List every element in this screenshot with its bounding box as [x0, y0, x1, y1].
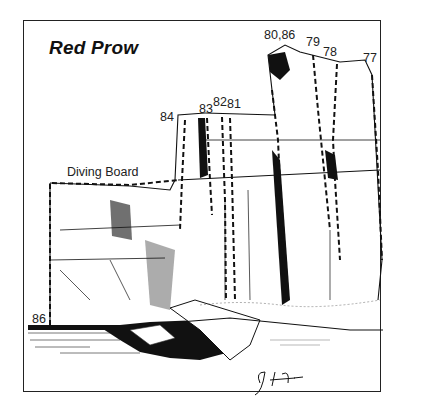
route-82-line[interactable]	[222, 117, 226, 300]
topo-title: Red Prow	[49, 37, 138, 59]
route-label-83[interactable]: 83	[199, 103, 213, 116]
lower-face-shading	[145, 240, 175, 310]
lower-cracks	[60, 260, 130, 300]
route-label-82[interactable]: 82	[213, 96, 227, 109]
boulder-face-shadow	[110, 200, 132, 240]
route-label-77[interactable]: 77	[363, 52, 377, 65]
route-78-line[interactable]	[333, 64, 340, 260]
artist-signature-mark	[255, 372, 303, 395]
prow-shadow	[268, 52, 290, 80]
route-84-line[interactable]	[180, 120, 185, 230]
chimney-shadow	[325, 150, 338, 180]
feature-label-diving-board: Diving Board	[67, 166, 139, 179]
rock-outlines	[50, 45, 382, 325]
route-label-78[interactable]: 78	[323, 46, 337, 59]
route-label-86-base[interactable]: 86	[32, 313, 46, 326]
route-81-line[interactable]	[230, 118, 235, 300]
route-label-84[interactable]: 84	[160, 111, 174, 124]
route-label-81[interactable]: 81	[227, 98, 241, 111]
route-label-79[interactable]: 79	[306, 36, 320, 49]
route-83-line[interactable]	[207, 118, 212, 215]
upper-ledge	[205, 113, 275, 115]
route-79-line[interactable]	[313, 55, 330, 230]
ripple-lines	[270, 340, 330, 345]
ground	[28, 300, 383, 360]
grass-line	[200, 300, 380, 307]
route-label-80-86[interactable]: 80,86	[264, 29, 295, 42]
